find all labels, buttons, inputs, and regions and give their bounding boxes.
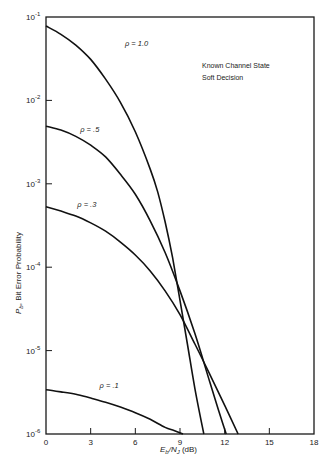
- curve-series-0: [46, 26, 204, 434]
- plot-frame: [46, 17, 314, 434]
- y-axis-label: Pb, Bit Error Probability: [14, 232, 24, 314]
- curve-label: ρ = .1: [99, 381, 119, 390]
- y-axis-ticks: 10-110-210-310-410-510-6: [26, 11, 52, 439]
- x-tick-label: 3: [88, 438, 93, 447]
- x-tick-label: 6: [133, 438, 138, 447]
- curve-series-1: [46, 126, 226, 434]
- y-tick-label: 10-5: [26, 345, 41, 356]
- curve-series-3: [46, 390, 183, 434]
- curve-label: ρ = 1.0: [124, 39, 149, 48]
- curve-labels: ρ = 1.0ρ = .5ρ = .3ρ = .1: [76, 39, 149, 390]
- curve-label: ρ = .3: [76, 200, 97, 209]
- y-tick-label: 10-6: [26, 428, 41, 439]
- y-tick-label: 10-4: [26, 261, 41, 272]
- curves: [46, 26, 238, 434]
- x-tick-label: 0: [44, 438, 49, 447]
- y-tick-label: 10-3: [26, 178, 41, 189]
- x-tick-label: 18: [310, 438, 319, 447]
- chart: 10-110-210-310-410-510-6 0369121518 ρ = …: [0, 0, 331, 467]
- annotation-soft-decision: Soft Decision: [202, 74, 243, 81]
- annotation-known-channel-state: Known Channel State: [202, 62, 270, 69]
- x-tick-label: 12: [220, 438, 229, 447]
- x-tick-label: 15: [265, 438, 274, 447]
- y-tick-label: 10-2: [26, 94, 41, 105]
- curve-label: ρ = .5: [79, 125, 100, 134]
- curve-series-2: [46, 207, 238, 434]
- y-tick-label: 10-1: [26, 11, 41, 22]
